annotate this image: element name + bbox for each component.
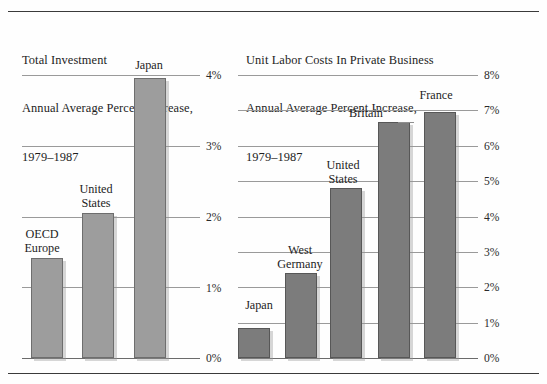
bar-label-japan: Japan [232, 298, 286, 312]
bar-britain [378, 122, 410, 358]
ytick-0pct: 0% [206, 353, 221, 365]
ytick-7pct: 7% [484, 105, 499, 117]
leader-line-britain [398, 122, 414, 123]
bar-japan [134, 78, 166, 358]
bar-united-states [82, 213, 114, 358]
gridline-0pct-baseline [238, 358, 478, 359]
ytick-1pct: 1% [484, 318, 499, 330]
gridline-4pct [22, 75, 200, 76]
gridline-3pct [22, 146, 200, 147]
bar-japan [238, 328, 270, 358]
bar-label-britain: Britain [336, 106, 396, 120]
bar-label-japan: Japan [116, 58, 182, 72]
figure-canvas: Total Investment Annual Average Percent … [0, 0, 547, 384]
gridline-0pct-baseline [22, 358, 200, 359]
bar-united-states [330, 188, 362, 358]
ytick-4pct: 4% [484, 212, 499, 224]
chart-total-investment: Total Investment Annual Average Percent … [0, 0, 232, 384]
ytick-1pct: 1% [206, 283, 221, 295]
ytick-5pct: 5% [484, 176, 499, 188]
ytick-4pct: 4% [206, 70, 221, 82]
plot-area-total-investment [22, 75, 200, 358]
bar-label-oecd-europe: OECD Europe [9, 227, 75, 256]
ytick-6pct: 6% [484, 141, 499, 153]
chart-unit-labor-costs: Unit Labor Costs In Private Business Ann… [226, 0, 547, 384]
ytick-8pct: 8% [484, 70, 499, 82]
bar-label-united-states: United States [311, 158, 375, 187]
ytick-2pct: 2% [484, 282, 499, 294]
bar-west-germany [285, 273, 317, 358]
title-line-1: Unit Labor Costs In Private Business [246, 52, 434, 68]
bar-oecd-europe [31, 258, 63, 358]
ytick-3pct: 3% [206, 141, 221, 153]
bar-label-france: France [406, 88, 466, 102]
ytick-0pct: 0% [484, 353, 499, 365]
gridline-8pct [238, 75, 478, 76]
bar-label-united-states: United States [62, 182, 130, 211]
ytick-2pct: 2% [206, 212, 221, 224]
ytick-3pct: 3% [484, 247, 499, 259]
bar-france [424, 112, 456, 358]
bar-label-west-germany: West Germany [264, 243, 336, 272]
